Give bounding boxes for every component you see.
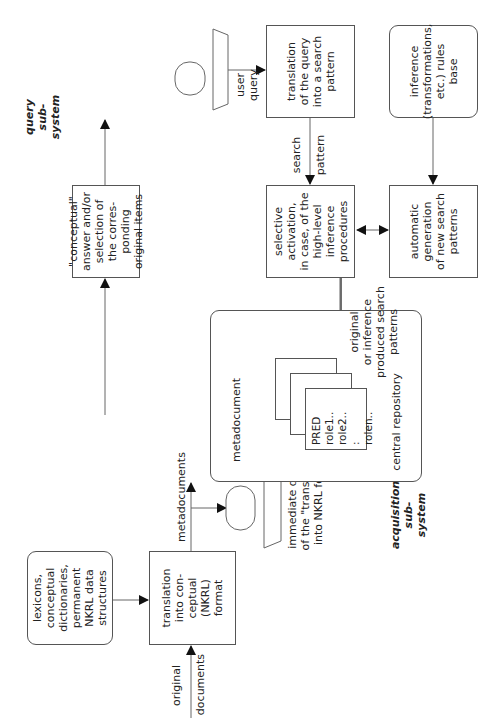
- inference-rules-base-box: inference (transformations, etc.) rules …: [389, 25, 478, 118]
- edge-label-user-query: user query: [234, 65, 260, 105]
- metadocument-label: metadocument: [230, 370, 243, 470]
- translation-query-box: translation of the query into a search p…: [266, 25, 355, 118]
- edge-label-pattern: pattern: [314, 130, 327, 180]
- edge-label-metadocuments: metadocuments: [175, 447, 188, 547]
- metadocument-page-front: PRED role1.. role2.. : rolen..: [305, 388, 367, 450]
- translation-nkrl-box: translation into con- ceptual (NKRL) for…: [149, 551, 236, 645]
- edge-label-documents: documents: [194, 652, 207, 717]
- edge-label-original: original: [170, 658, 183, 713]
- conceptual-answer-box: "conceptual" answer and/or selection of …: [72, 185, 140, 278]
- lexicons-box: lexicons, conceptual dictionaries, perma…: [27, 551, 113, 645]
- nkrl-architecture-diagram: query sub-system acquisition sub-system …: [0, 0, 500, 725]
- acquisition-subsystem-title: acquisition sub-system: [389, 480, 428, 550]
- edge-label-search: search: [290, 130, 303, 180]
- selective-activation-box: selective activation, in case, of the hi…: [266, 185, 355, 278]
- automatic-generation-box: automatic generation of new search patte…: [389, 185, 478, 278]
- edge-label-produced-patterns: original or inference produced search pa…: [348, 282, 400, 382]
- query-subsystem-title: query sub-system: [23, 87, 62, 147]
- central-repository-label: central repository: [390, 367, 403, 477]
